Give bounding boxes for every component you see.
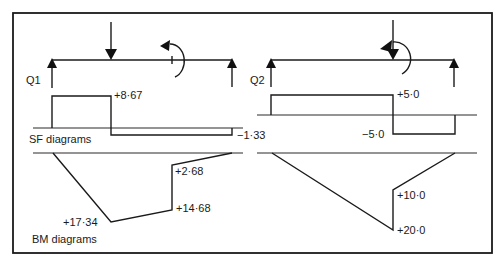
left-right-reaction-arrow-icon xyxy=(227,58,237,87)
right-applied-moment-icon xyxy=(380,40,411,74)
sf-diagrams-caption: SF diagrams xyxy=(29,133,92,145)
left-point-load-arrow-icon xyxy=(105,22,117,60)
right-sf-positive-label: +5·0 xyxy=(397,88,419,100)
left-sf-diagram xyxy=(52,96,232,135)
left-bm-after-moment-label: +2·68 xyxy=(175,165,203,177)
right-right-reaction-arrow-icon xyxy=(449,58,459,87)
left-applied-moment-icon xyxy=(160,40,184,77)
beam-diagram: Q1 +8·67 −1·33 SF diagrams +2·68 +14·68 … xyxy=(0,0,501,260)
right-panel: Q2 +5·0 −5·0 +10·0 +20·0 xyxy=(250,20,477,236)
left-sf-positive-label: +8·67 xyxy=(114,89,142,101)
right-bm-peak-label: +20·0 xyxy=(397,224,425,236)
right-point-load-arrow-icon xyxy=(387,20,399,60)
right-sf-negative-label: −5·0 xyxy=(362,128,384,140)
bm-diagrams-caption: BM diagrams xyxy=(32,233,97,245)
right-bm-diagram xyxy=(272,153,455,230)
q1-label: Q1 xyxy=(26,74,41,86)
right-bm-lower-label: +10·0 xyxy=(397,189,425,201)
right-reaction-q2-arrow-icon xyxy=(266,58,276,87)
left-reaction-q1-arrow-icon xyxy=(47,58,57,88)
left-sf-negative-label: −1·33 xyxy=(237,129,265,141)
left-bm-before-moment-label: +14·68 xyxy=(176,202,211,214)
q2-label: Q2 xyxy=(250,74,265,86)
left-panel: Q1 +8·67 −1·33 SF diagrams +2·68 +14·68 … xyxy=(26,22,265,245)
left-bm-peak-label: +17·34 xyxy=(63,216,98,228)
